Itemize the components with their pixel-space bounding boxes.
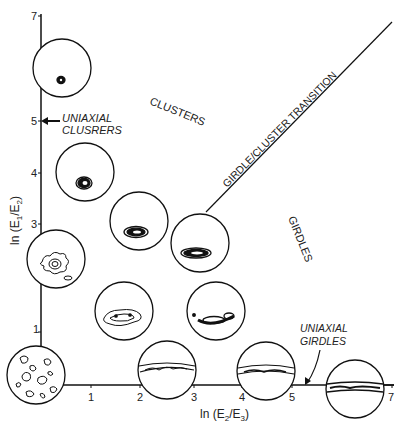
stereonet-uniaxial-girdle [326, 360, 384, 418]
girdles-region-label: GIRDLES [286, 214, 315, 263]
x-tick-7: 7 [388, 391, 394, 403]
uniaxial-clusters-label-1: UNIAXIAL [62, 112, 112, 124]
stereonet-cluster [56, 143, 114, 201]
stereonet-diffuse-cluster [27, 230, 85, 288]
uniaxial-girdles-label-1: UNIAXIAL [300, 322, 348, 334]
stereonet-elongate-cluster-1 [110, 192, 168, 250]
arrowhead-icon [41, 117, 48, 125]
stereonet-random [7, 346, 65, 404]
uniaxial-girdles-label-2: GIRDLES [300, 335, 346, 347]
x-tick-3: 3 [191, 391, 197, 403]
x-tick-5: 5 [289, 391, 295, 403]
transition-label: GIRDLE/CLUSTER TRANSITION [220, 69, 339, 190]
y-axis-label: ln (E1/E2) [8, 196, 24, 245]
x-tick-2: 2 [137, 391, 143, 403]
y-tick-4: 4 [31, 167, 37, 179]
uniaxial-clusters-label-2: CLUSRERS [62, 124, 123, 136]
y-tick-3: 3 [31, 218, 37, 230]
stereonet-diffuse-girdle [95, 282, 153, 340]
uniaxial-girdles-arrow [307, 350, 320, 383]
clusters-region-label: CLUSTERS [148, 95, 207, 128]
stereonet-partial-girdle [187, 282, 245, 340]
stereonet-girdle-1 [138, 341, 196, 399]
x-tick-1: 1 [88, 391, 94, 403]
stereonet-elongate-cluster-2 [171, 214, 229, 272]
y-tick-7: 7 [31, 10, 37, 22]
x-tick-4: 4 [239, 391, 245, 403]
fabric-shape-diagram: 7 5 4 3 1 1 2 3 4 5 7 ln (E2/E3) ln (E1/… [0, 0, 408, 432]
y-tick-1: 1 [33, 323, 39, 335]
stereonet-tight-cluster [33, 39, 91, 97]
stereonet-girdle-2 [237, 342, 295, 400]
y-tick-5: 5 [31, 115, 37, 127]
x-axis-label: ln (E2/E3) [200, 407, 249, 423]
